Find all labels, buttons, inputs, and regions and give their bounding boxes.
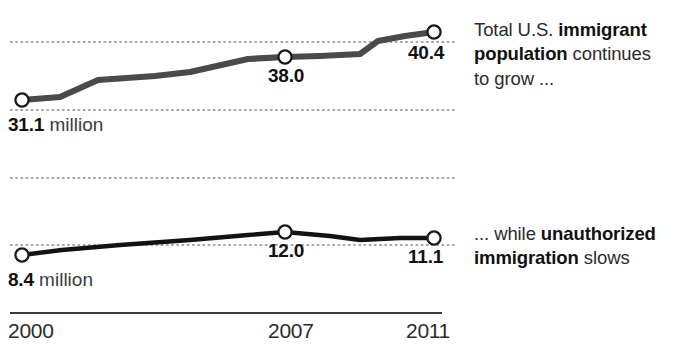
figure-root: 31.1 million 38.0 40.4 8.4 million 12.0 … — [0, 0, 673, 351]
series-unauthorized-immigration-line — [22, 232, 434, 255]
value-label-2011-immigrant-number: 40.4 — [408, 42, 444, 63]
datapoint-marker-2011-immigrant — [427, 25, 440, 38]
value-label-2000-immigrant-unit: million — [44, 114, 103, 135]
x-tick-label-2000: 2000 — [8, 320, 54, 341]
series-unauthorized-immigration — [15, 225, 440, 261]
value-label-2011-unauthorized: 11.1 — [408, 247, 443, 266]
value-label-2007-immigrant: 38.0 — [268, 66, 304, 85]
value-label-2000-unauthorized-unit: million — [34, 269, 93, 290]
annotation-run-0: ... while — [474, 223, 541, 244]
datapoint-marker-2007-unauthorized — [278, 225, 291, 238]
annotation-immigrant-population: Total U.S. immigrant population continue… — [474, 18, 670, 91]
value-label-2011-immigrant: 40.4 — [408, 43, 444, 62]
annotation-run-0: Total U.S. — [474, 19, 558, 40]
annotation-run-2: slows — [579, 247, 630, 268]
value-label-2000-unauthorized-number: 8.4 — [8, 269, 34, 290]
chart-plot-area: 31.1 million 38.0 40.4 8.4 million 12.0 … — [0, 0, 465, 351]
value-label-2007-unauthorized: 12.0 — [268, 241, 304, 260]
series-immigrant-population — [15, 25, 440, 106]
value-label-2000-unauthorized: 8.4 million — [8, 270, 93, 289]
annotation-unauthorized-immigration: ... while unauthorized immigration slows — [474, 222, 670, 271]
value-label-2011-unauthorized-number: 11.1 — [408, 246, 443, 267]
value-label-2000-immigrant: 31.1 million — [8, 115, 103, 134]
x-tick-label-2011: 2011 — [406, 320, 450, 341]
datapoint-marker-2000-immigrant — [15, 93, 28, 106]
datapoint-marker-2000-unauthorized — [15, 248, 28, 261]
value-label-2007-immigrant-number: 38.0 — [268, 65, 304, 86]
x-tick-label-2007: 2007 — [268, 320, 314, 341]
gridlines — [10, 42, 455, 245]
datapoint-marker-2011-unauthorized — [427, 231, 440, 244]
chart-svg — [0, 0, 465, 351]
datapoint-marker-2007-immigrant — [278, 50, 291, 63]
value-label-2000-immigrant-number: 31.1 — [8, 114, 44, 135]
value-label-2007-unauthorized-number: 12.0 — [268, 240, 304, 261]
